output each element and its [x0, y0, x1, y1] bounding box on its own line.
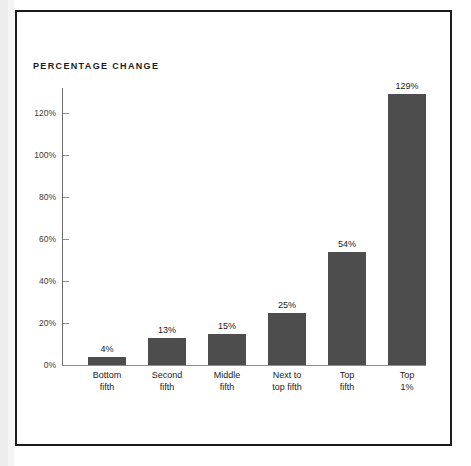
bar-value-label: 15% [197, 321, 257, 331]
y-tick-label: 80% [12, 192, 56, 202]
x-category-label: Middle fifth [194, 370, 260, 393]
y-tick-mark [63, 239, 69, 240]
bar-value-label: 13% [137, 325, 197, 335]
chart-screenshot: PERCENTAGE CHANGE 0%20%40%60%80%100%120%… [0, 0, 471, 466]
plot-area: 0%20%40%60%80%100%120% 4%13%15%25%54%129… [0, 0, 471, 466]
bar [268, 313, 306, 366]
y-tick-label: 60% [12, 234, 56, 244]
x-category-label: Bottom fifth [74, 370, 140, 393]
y-tick-label: 20% [12, 318, 56, 328]
bar-value-label: 25% [257, 300, 317, 310]
x-category-label: Top 1% [374, 370, 440, 393]
bar [88, 357, 126, 365]
y-tick-label: 40% [12, 276, 56, 286]
bar-value-label: 4% [77, 344, 137, 354]
y-tick-mark [63, 113, 69, 114]
x-category-label: Next to top fifth [254, 370, 320, 393]
y-tick-mark [63, 323, 69, 324]
x-category-label: Top fifth [314, 370, 380, 393]
y-tick-mark [63, 365, 69, 366]
bar [148, 338, 186, 365]
y-axis-line [62, 88, 63, 366]
y-tick-mark [63, 197, 69, 198]
y-tick-label: 0% [12, 360, 56, 370]
x-axis-line [62, 365, 426, 366]
bar [328, 252, 366, 365]
bar-value-label: 129% [377, 81, 437, 91]
bar [388, 94, 426, 365]
x-category-label: Second fifth [134, 370, 200, 393]
y-tick-mark [63, 281, 69, 282]
y-tick-label: 120% [12, 108, 56, 118]
y-tick-mark [63, 155, 69, 156]
bar-value-label: 54% [317, 239, 377, 249]
y-tick-label: 100% [12, 150, 56, 160]
bar [208, 334, 246, 366]
